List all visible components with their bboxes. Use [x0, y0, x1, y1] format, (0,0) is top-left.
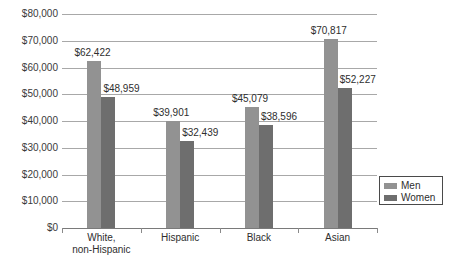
legend-item-women[interactable]: Women [384, 192, 442, 203]
y-axis-tick-label: $0 [2, 223, 58, 233]
y-axis-tick-label: $50,000 [2, 89, 58, 99]
legend-swatch-men [384, 183, 397, 189]
x-axis-tick-mark [298, 228, 299, 233]
bar-women-0[interactable] [101, 97, 115, 228]
x-axis-tick-mark [62, 228, 63, 233]
bar-value-label: $38,596 [261, 112, 297, 122]
y-axis-tick-label: $20,000 [2, 170, 58, 180]
legend-label-women: Women [401, 193, 435, 203]
bar-chart: $80,000$70,000$60,000$50,000$40,000$30,0… [0, 0, 458, 271]
bar-women-2[interactable] [259, 125, 273, 228]
x-axis-tick-mark [141, 228, 142, 233]
bar-value-label: $62,422 [74, 48, 110, 58]
gridline [62, 14, 377, 15]
y-axis: $80,000$70,000$60,000$50,000$40,000$30,0… [0, 0, 58, 271]
x-axis-category-label: Hispanic [141, 232, 220, 244]
y-axis-tick-label: $40,000 [2, 116, 58, 126]
y-axis-tick-label: $80,000 [2, 9, 58, 19]
x-axis-category-line: Black [220, 232, 299, 244]
bar-women-3[interactable] [338, 88, 352, 228]
x-axis-category-line: Hispanic [141, 232, 220, 244]
x-axis-category-line: White, [62, 232, 141, 244]
bar-value-label: $70,817 [311, 26, 347, 36]
x-axis-category-label: White,non-Hispanic [62, 232, 141, 256]
bar-men-0[interactable] [87, 61, 101, 228]
x-axis-category-label: Black [220, 232, 299, 244]
bar-value-label: $48,959 [103, 84, 139, 94]
bar-men-1[interactable] [166, 121, 180, 228]
x-axis-category-line: Asian [298, 232, 377, 244]
bar-value-label: $45,079 [232, 94, 268, 104]
y-axis-tick-label: $10,000 [2, 196, 58, 206]
y-axis-tick-label: $70,000 [2, 36, 58, 46]
legend-item-men[interactable]: Men [384, 180, 442, 191]
x-axis-category-label: Asian [298, 232, 377, 244]
bar-men-3[interactable] [324, 39, 338, 228]
chart-legend: Men Women [379, 176, 443, 205]
x-axis-tick-mark [377, 228, 378, 233]
bar-value-label: $52,227 [340, 75, 376, 85]
bar-value-label: $32,439 [182, 128, 218, 138]
x-axis-tick-mark [220, 228, 221, 233]
legend-swatch-women [384, 195, 397, 201]
bar-value-label: $39,901 [153, 108, 189, 118]
y-axis-tick-label: $30,000 [2, 143, 58, 153]
y-axis-tick-label: $60,000 [2, 63, 58, 73]
x-axis-category-line: non-Hispanic [62, 244, 141, 256]
bar-men-2[interactable] [245, 107, 259, 228]
bar-women-1[interactable] [180, 141, 194, 228]
legend-label-men: Men [401, 181, 420, 191]
